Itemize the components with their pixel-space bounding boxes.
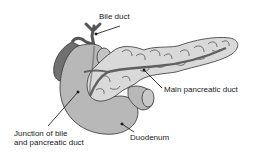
junction-label-line2: and pancreatic duct — [14, 138, 84, 147]
bile-duct-label: Bile duct — [99, 12, 130, 21]
duodenum-label: Duodenum — [130, 133, 169, 142]
junction-label-line1: Junction of bile — [14, 129, 67, 138]
main-pancreatic-duct-label: Main pancreatic duct — [164, 85, 238, 94]
duodenum-lower-end — [142, 89, 154, 107]
